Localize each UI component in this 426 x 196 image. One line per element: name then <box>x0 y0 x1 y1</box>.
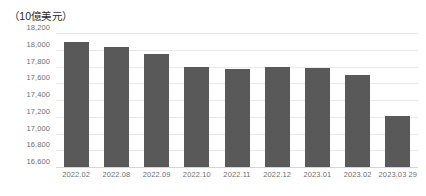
y-axis-tick-label: 17,400 <box>26 90 50 99</box>
x-axis-tick-label: 2022.11 <box>223 170 250 179</box>
bar <box>144 54 169 167</box>
y-axis-tick-label: 18,000 <box>26 39 50 48</box>
x-axis-tick-label: 2023.02 <box>344 170 372 179</box>
bar <box>104 47 129 167</box>
bar <box>385 116 410 167</box>
bar <box>305 68 330 167</box>
x-axis-tick-label: 2022.08 <box>102 170 130 179</box>
x-axis-tick-label: 2022.10 <box>183 170 211 179</box>
y-axis: 16,60016,80017,00017,20017,40017,60017,8… <box>0 27 56 173</box>
bar <box>265 67 290 167</box>
y-axis-tick-label: 16,600 <box>26 157 50 166</box>
x-axis-tick-label: 2022.09 <box>143 170 171 179</box>
chart-unit-caption: （10億美元） <box>9 9 72 23</box>
y-axis-tick-label: 17,600 <box>26 73 50 82</box>
x-axis-tick-label: 2023.03 29 <box>379 170 418 179</box>
y-axis-tick-label: 18,200 <box>26 23 50 32</box>
bar-chart-figure: （10億美元） 16,60016,80017,00017,20017,40017… <box>0 0 426 196</box>
y-axis-tick-label: 17,000 <box>26 123 50 132</box>
bar-series <box>56 33 418 167</box>
plot-area <box>56 33 418 167</box>
bar <box>64 42 89 167</box>
x-axis-tick-label: 2023.01 <box>304 170 332 179</box>
y-axis-tick-label: 17,800 <box>26 56 50 65</box>
bar <box>225 69 250 167</box>
y-axis-tick-label: 16,800 <box>26 140 50 149</box>
bar <box>184 67 209 167</box>
x-axis-tick-label: 2022.12 <box>263 170 291 179</box>
bar <box>345 75 370 167</box>
gridline <box>56 167 418 168</box>
x-axis-tick-label: 2022.02 <box>62 170 90 179</box>
y-axis-tick-label: 17,200 <box>26 106 50 115</box>
x-axis: 2022.022022.082022.092022.102022.112022.… <box>56 170 418 184</box>
